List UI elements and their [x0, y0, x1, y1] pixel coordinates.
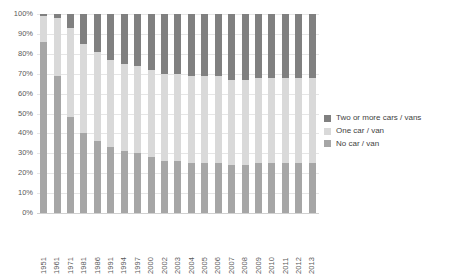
- bar-stack: [161, 14, 168, 213]
- bar-segment[interactable]: [80, 44, 87, 134]
- bar-segment[interactable]: [255, 14, 262, 78]
- legend-item[interactable]: Two or more cars / vans: [324, 114, 460, 122]
- bar-stack: [188, 14, 195, 213]
- bar-segment[interactable]: [161, 74, 168, 162]
- y-axis-tick-label: 60%: [0, 90, 33, 98]
- bar-segment[interactable]: [268, 163, 275, 213]
- bar-segment[interactable]: [255, 78, 262, 164]
- bar-group[interactable]: [252, 14, 265, 213]
- bar-segment[interactable]: [215, 163, 222, 213]
- bar-segment[interactable]: [161, 161, 168, 213]
- bar-segment[interactable]: [148, 157, 155, 213]
- bar-segment[interactable]: [67, 117, 74, 213]
- bar-segment[interactable]: [67, 28, 74, 118]
- bar-segment[interactable]: [228, 80, 235, 166]
- bar-segment[interactable]: [309, 14, 316, 78]
- bar-group[interactable]: [118, 14, 131, 213]
- bar-segment[interactable]: [295, 163, 302, 213]
- bar-group[interactable]: [185, 14, 198, 213]
- bar-stack: [255, 14, 262, 213]
- bar-series-container: [37, 14, 319, 213]
- bar-group[interactable]: [77, 14, 90, 213]
- y-axis-tick-label: 40%: [0, 130, 33, 138]
- bar-group[interactable]: [238, 14, 251, 213]
- bar-segment[interactable]: [188, 14, 195, 76]
- bar-group[interactable]: [198, 14, 211, 213]
- bar-group[interactable]: [171, 14, 184, 213]
- bar-segment[interactable]: [174, 161, 181, 213]
- bar-segment[interactable]: [228, 14, 235, 80]
- bar-group[interactable]: [279, 14, 292, 213]
- bar-segment[interactable]: [228, 165, 235, 213]
- bar-segment[interactable]: [255, 163, 262, 213]
- bar-segment[interactable]: [40, 16, 47, 42]
- bar-group[interactable]: [225, 14, 238, 213]
- x-axis-tick: 2012: [292, 216, 305, 274]
- x-axis-tick: 1994: [118, 216, 131, 274]
- bar-segment[interactable]: [282, 14, 289, 78]
- bar-segment[interactable]: [121, 64, 128, 152]
- bar-segment[interactable]: [107, 14, 114, 60]
- bar-segment[interactable]: [134, 14, 141, 66]
- bar-segment[interactable]: [242, 165, 249, 213]
- bar-segment[interactable]: [94, 141, 101, 213]
- bar-group[interactable]: [50, 14, 63, 213]
- bar-segment[interactable]: [148, 70, 155, 158]
- bar-segment[interactable]: [80, 133, 87, 213]
- legend-item[interactable]: No car / van: [324, 140, 460, 148]
- bar-segment[interactable]: [201, 163, 208, 213]
- bar-segment[interactable]: [268, 14, 275, 78]
- legend-item[interactable]: One car / van: [324, 127, 460, 135]
- bar-segment[interactable]: [54, 76, 61, 213]
- bar-group[interactable]: [158, 14, 171, 213]
- bar-group[interactable]: [37, 14, 50, 213]
- bar-group[interactable]: [104, 14, 117, 213]
- bar-group[interactable]: [265, 14, 278, 213]
- bar-stack: [268, 14, 275, 213]
- bar-segment[interactable]: [54, 18, 61, 76]
- bar-group[interactable]: [292, 14, 305, 213]
- bar-segment[interactable]: [40, 42, 47, 213]
- bar-segment[interactable]: [268, 78, 275, 164]
- bar-segment[interactable]: [242, 14, 249, 80]
- bar-segment[interactable]: [148, 14, 155, 70]
- bar-segment[interactable]: [107, 60, 114, 148]
- bar-stack: [282, 14, 289, 213]
- bar-segment[interactable]: [107, 147, 114, 213]
- bar-segment[interactable]: [121, 14, 128, 64]
- bar-segment[interactable]: [309, 78, 316, 164]
- bar-segment[interactable]: [174, 14, 181, 74]
- bar-segment[interactable]: [94, 52, 101, 142]
- bar-segment[interactable]: [295, 78, 302, 164]
- bar-group[interactable]: [305, 14, 318, 213]
- bar-segment[interactable]: [188, 163, 195, 213]
- bar-segment[interactable]: [242, 80, 249, 166]
- bar-segment[interactable]: [201, 76, 208, 164]
- bar-group[interactable]: [91, 14, 104, 213]
- bar-segment[interactable]: [174, 74, 181, 162]
- x-axis-tick-label: 2004: [188, 216, 196, 274]
- bar-group[interactable]: [131, 14, 144, 213]
- bar-segment[interactable]: [309, 163, 316, 213]
- bar-segment[interactable]: [80, 14, 87, 44]
- x-axis-tick: 2008: [238, 216, 251, 274]
- bar-segment[interactable]: [134, 153, 141, 213]
- bar-segment[interactable]: [188, 76, 195, 164]
- legend-swatch-icon: [324, 140, 331, 147]
- bar-segment[interactable]: [215, 14, 222, 76]
- y-axis-tick-label: 10%: [0, 189, 33, 197]
- bar-segment[interactable]: [215, 76, 222, 164]
- bar-segment[interactable]: [295, 14, 302, 78]
- bar-segment[interactable]: [282, 78, 289, 164]
- bar-group[interactable]: [211, 14, 224, 213]
- bar-segment[interactable]: [161, 14, 168, 74]
- bar-group[interactable]: [144, 14, 157, 213]
- bar-segment[interactable]: [94, 14, 101, 52]
- bar-group[interactable]: [64, 14, 77, 213]
- bar-segment[interactable]: [121, 151, 128, 213]
- bar-segment[interactable]: [67, 14, 74, 28]
- x-axis-tick-label: 2011: [282, 216, 290, 274]
- bar-segment[interactable]: [134, 66, 141, 154]
- bar-segment[interactable]: [282, 163, 289, 213]
- bar-segment[interactable]: [201, 14, 208, 76]
